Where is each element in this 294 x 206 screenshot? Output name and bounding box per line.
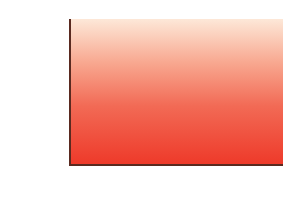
x-axis-line xyxy=(69,164,283,166)
plot-area xyxy=(70,19,283,164)
y-axis-line xyxy=(69,19,71,165)
